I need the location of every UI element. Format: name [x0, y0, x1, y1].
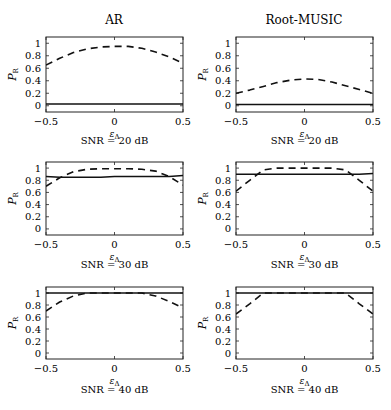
- snr-caption: SNR = 20 dB: [81, 135, 149, 146]
- subplot-5: 00.20.40.60.81−0.500.5εΔPRSNR = 40 dB: [6, 287, 191, 395]
- x-tick-label: 0.5: [175, 116, 191, 127]
- y-tick-label: 0: [225, 348, 231, 359]
- y-tick-label: 0.4: [25, 324, 41, 335]
- subplot-3: 00.20.40.60.81−0.500.5εΔPRSNR = 30 dB: [6, 162, 191, 270]
- x-tick-label: 0: [111, 363, 117, 374]
- y-tick-label: 1: [35, 163, 41, 174]
- y-tick-label: 0: [35, 100, 41, 111]
- x-tick-label: −0.5: [34, 239, 58, 250]
- x-tick-label: 0.5: [365, 239, 381, 250]
- y-tick-label: 0.2: [215, 211, 231, 222]
- y-tick-label: 0.4: [215, 324, 231, 335]
- y-tick-label: 0.8: [25, 50, 41, 61]
- y-tick-label: 0.2: [25, 211, 41, 222]
- x-tick-label: 0.5: [175, 363, 191, 374]
- x-tick-label: 0: [301, 239, 307, 250]
- y-axis-label: PR: [6, 316, 20, 330]
- y-tick-label: 1: [35, 288, 41, 299]
- y-tick-label: 0: [225, 100, 231, 111]
- y-tick-label: 0: [35, 348, 41, 359]
- axes-box: [46, 162, 183, 235]
- y-tick-label: 0.2: [215, 88, 231, 99]
- x-tick-label: 0.5: [365, 363, 381, 374]
- snr-caption: SNR = 40 dB: [81, 384, 149, 395]
- dashed-series-line: [236, 293, 373, 314]
- y-tick-label: 0: [35, 223, 41, 234]
- subplot-1: 00.20.40.60.81−0.500.5εΔPRSNR = 20 dB: [6, 37, 191, 146]
- x-tick-label: −0.5: [224, 363, 248, 374]
- x-tick-label: −0.5: [224, 116, 248, 127]
- axes-box: [236, 37, 373, 112]
- y-tick-label: 0.4: [215, 199, 231, 210]
- y-tick-label: 0.4: [25, 199, 41, 210]
- axes-box: [46, 287, 183, 359]
- y-tick-label: 0.8: [215, 300, 231, 311]
- y-tick-label: 0.2: [25, 88, 41, 99]
- y-tick-label: 0.8: [25, 175, 41, 186]
- snr-caption: SNR = 20 dB: [271, 135, 339, 146]
- subplot-2: 00.20.40.60.81−0.500.5εΔPRSNR = 20 dB: [196, 37, 381, 146]
- y-tick-label: 0.6: [25, 312, 41, 323]
- y-tick-label: 0.2: [215, 336, 231, 347]
- y-tick-label: 0.6: [25, 187, 41, 198]
- dashed-series-line: [236, 168, 373, 191]
- y-axis-label: PR: [6, 191, 20, 205]
- snr-caption: SNR = 40 dB: [271, 384, 339, 395]
- subplot-6: 00.20.40.60.81−0.500.5εΔPRSNR = 40 dB: [196, 287, 381, 395]
- y-tick-label: 0.8: [25, 300, 41, 311]
- x-tick-label: −0.5: [224, 239, 248, 250]
- figure-canvas: 00.20.40.60.81−0.500.5εΔPRSNR = 20 dB00.…: [0, 0, 391, 410]
- y-tick-label: 0.6: [215, 63, 231, 74]
- y-tick-label: 0.8: [215, 50, 231, 61]
- x-tick-label: 0: [301, 363, 307, 374]
- y-axis-label: PR: [196, 316, 210, 330]
- y-tick-label: 1: [225, 163, 231, 174]
- snr-caption: SNR = 30 dB: [81, 259, 149, 270]
- x-tick-label: 0.5: [365, 116, 381, 127]
- y-tick-label: 1: [225, 38, 231, 49]
- x-tick-label: 0: [301, 116, 307, 127]
- y-tick-label: 0.8: [215, 175, 231, 186]
- dashed-series-line: [46, 46, 183, 65]
- axes-box: [236, 162, 373, 235]
- y-axis-label: PR: [196, 191, 210, 205]
- x-tick-label: 0: [111, 239, 117, 250]
- y-tick-label: 0.6: [25, 63, 41, 74]
- x-tick-label: −0.5: [34, 116, 58, 127]
- solid-series-line: [46, 175, 183, 177]
- y-tick-label: 1: [35, 38, 41, 49]
- x-tick-label: −0.5: [34, 363, 58, 374]
- y-tick-label: 0.4: [25, 75, 41, 86]
- snr-caption: SNR = 30 dB: [271, 259, 339, 270]
- y-tick-label: 0.6: [215, 312, 231, 323]
- axes-box: [46, 37, 183, 112]
- y-tick-label: 0.4: [215, 75, 231, 86]
- x-tick-label: 0: [111, 116, 117, 127]
- y-axis-label: PR: [196, 67, 210, 81]
- y-tick-label: 0: [225, 223, 231, 234]
- subplot-4: 00.20.40.60.81−0.500.5εΔPRSNR = 30 dB: [196, 162, 381, 270]
- y-axis-label: PR: [6, 67, 20, 81]
- y-tick-label: 0.2: [25, 336, 41, 347]
- y-tick-label: 1: [225, 288, 231, 299]
- x-tick-label: 0.5: [175, 239, 191, 250]
- dashed-series-line: [46, 293, 183, 311]
- y-tick-label: 0.6: [215, 187, 231, 198]
- dashed-series-line: [236, 79, 373, 93]
- solid-series-line: [236, 174, 373, 175]
